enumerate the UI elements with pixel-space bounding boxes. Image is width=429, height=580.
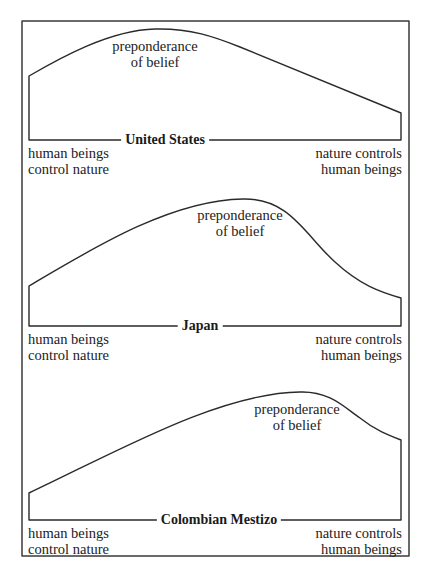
colombian-mestizo-title: Colombian Mestizo bbox=[157, 513, 281, 527]
us-curve bbox=[29, 29, 401, 140]
colombian-mestizo-curve bbox=[29, 392, 401, 520]
colombian-mestizo-left-label: human beings control nature bbox=[28, 525, 109, 557]
japan-title: Japan bbox=[178, 319, 223, 333]
colombian-mestizo-peak-label: preponderance of belief bbox=[254, 401, 339, 433]
us-peak-label: preponderance of belief bbox=[112, 38, 197, 70]
us-left-label: human beings control nature bbox=[28, 145, 109, 177]
figure-lines bbox=[0, 0, 429, 580]
japan-peak-label: preponderance of belief bbox=[197, 207, 282, 239]
value-orientation-figure: preponderance of belief United States hu… bbox=[0, 0, 429, 580]
colombian-mestizo-right-label: nature controls human beings bbox=[315, 525, 402, 557]
us-right-label: nature controls human beings bbox=[315, 145, 402, 177]
japan-left-label: human beings control nature bbox=[28, 331, 109, 363]
japan-right-label: nature controls human beings bbox=[315, 331, 402, 363]
us-title: United States bbox=[121, 133, 209, 147]
outer-frame bbox=[22, 21, 409, 556]
